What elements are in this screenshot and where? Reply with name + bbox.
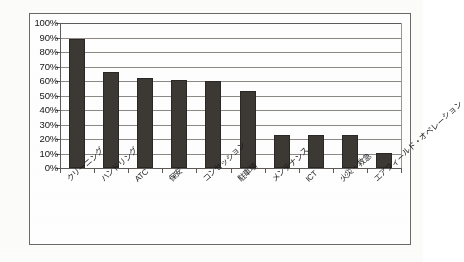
y-axis-tick-label: 70% [22,62,58,72]
bar [240,91,256,168]
bar [103,72,119,168]
x-axis-tickmark [231,169,232,173]
bar [205,81,221,168]
y-axis-tick-label: 0% [22,163,58,173]
plot-area [60,23,401,168]
x-axis-tickmark [401,169,402,173]
y-axis-tick-label: 10% [22,149,58,159]
x-axis-tickmark [196,169,197,173]
bar [376,153,392,168]
x-axis-tickmark [265,169,266,173]
bar [69,39,85,168]
bar [342,135,358,168]
y-axis-tick-label: 40% [22,105,58,115]
x-axis-tickmark [94,169,95,173]
y-axis-tick-label: 90% [22,33,58,43]
y-axis-tick-label: 100% [22,18,58,28]
y-axis-tick-label: 60% [22,76,58,86]
y-axis-tick-label: 30% [22,120,58,130]
x-axis-tickmark [299,169,300,173]
y-axis-labels: 100%90%80%70%60%50%40%30%20%10%0% [18,0,58,262]
y-axis-tick-label: 80% [22,47,58,57]
bar [308,135,324,168]
x-axis-tickmark [367,169,368,173]
x-axis-tickmark [162,169,163,173]
bar [274,135,290,168]
plot-right-edge [401,23,402,169]
bar [171,80,187,168]
bar [137,78,153,168]
x-axis-tickmark [60,169,61,173]
x-axis-tickmark [128,169,129,173]
y-axis-tick-label: 20% [22,134,58,144]
x-axis-tickmark [333,169,334,173]
y-axis-tick-label: 50% [22,91,58,101]
